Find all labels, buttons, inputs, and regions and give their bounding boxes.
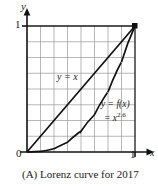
lorenz-label-base: = x: [104, 113, 117, 123]
lorenz-curve-label-line2: = x2.6: [104, 112, 126, 124]
identity-line-label: y = x: [57, 72, 78, 82]
x-axis-label: x: [150, 148, 154, 158]
lorenz-curve-label-line1: y = f(x): [101, 100, 130, 110]
y-axis: [22, 8, 30, 152]
y-axis-tick-label-1: 1: [15, 19, 21, 30]
origin-tick-label: 0: [16, 148, 22, 159]
lorenz-label-exponent: 2.6: [117, 111, 126, 119]
plot-canvas: [0, 0, 158, 162]
endpoint-marker: [132, 23, 138, 29]
x-axis-tick-label-1: 1: [130, 149, 136, 160]
lorenz-curve-figure: y x 1 0 1 y = x y = f(x) = x2.6 (A) Lore…: [0, 0, 158, 186]
figure-caption: (A) Lorenz curve for 2017: [22, 169, 139, 180]
y-axis-label: y: [21, 1, 26, 12]
